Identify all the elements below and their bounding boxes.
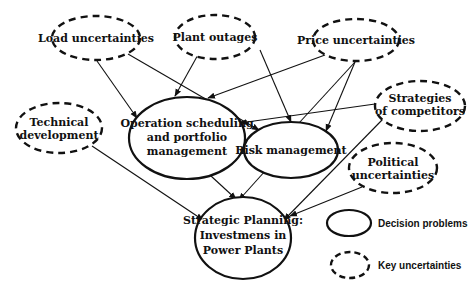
node-label: Risk management — [235, 144, 347, 157]
node-operation-scheduling: Operation scheduling and portfolio manag… — [120, 97, 254, 179]
legend-label: Key uncertainties — [378, 260, 462, 271]
edge-plant-to-operation — [175, 53, 199, 96]
legend-label: Decision problems — [378, 218, 468, 229]
node-label: Price uncertainties — [297, 34, 415, 47]
node-label: Plant outages — [173, 31, 258, 44]
node-strategies-of-competitors: Strategies of competitors — [375, 81, 465, 131]
edge-strategies-to-operation — [240, 104, 375, 123]
edge-risk-to-strategic — [239, 170, 266, 200]
node-price-uncertainties: Price uncertainties — [297, 19, 415, 61]
legend-solid-ellipse-icon — [327, 210, 371, 236]
node-load-uncertainties: Load uncertainties — [38, 16, 154, 60]
edge-load-to-operation — [97, 61, 137, 118]
node-label-line1: Strategic Planning: — [183, 214, 303, 227]
legend-dashed-ellipse-icon — [331, 252, 369, 278]
node-label-line2: uncertainties — [352, 169, 434, 182]
node-label-line3: Power Plants — [203, 244, 283, 257]
node-label: Load uncertainties — [38, 32, 154, 45]
node-label-line2: of competitors — [375, 105, 465, 118]
node-label-line2: and portfolio — [147, 131, 227, 144]
edge-price-to-risk-b — [326, 62, 355, 131]
node-label-line1: Strategies — [388, 92, 451, 105]
node-label-line2: Investmens in — [200, 229, 287, 242]
legend: Decision problems Key uncertainties — [327, 210, 468, 278]
node-political-uncertainties: Political uncertainties — [349, 143, 437, 193]
legend-key-uncertainties: Key uncertainties — [331, 252, 462, 278]
node-label-line1: Technical — [30, 116, 89, 129]
node-plant-outages: Plant outages — [173, 15, 258, 59]
node-label-line2: development — [19, 129, 99, 142]
edge-price-to-operation — [208, 55, 325, 98]
edge-operation-to-strategic — [211, 176, 236, 199]
influence-diagram: Load uncertainties Plant outages Price u… — [0, 0, 471, 290]
node-risk-management: Risk management — [235, 122, 347, 178]
node-strategic-planning: Strategic Planning: Investmens in Power … — [183, 197, 303, 279]
node-label-line1: Political — [368, 156, 419, 169]
node-label-line3: management — [147, 145, 228, 158]
node-technical-development: Technical development — [16, 103, 102, 153]
legend-decision-problems: Decision problems — [327, 210, 468, 236]
node-label-line1: Operation scheduling — [120, 117, 254, 130]
edge-plant-to-risk — [260, 50, 291, 122]
